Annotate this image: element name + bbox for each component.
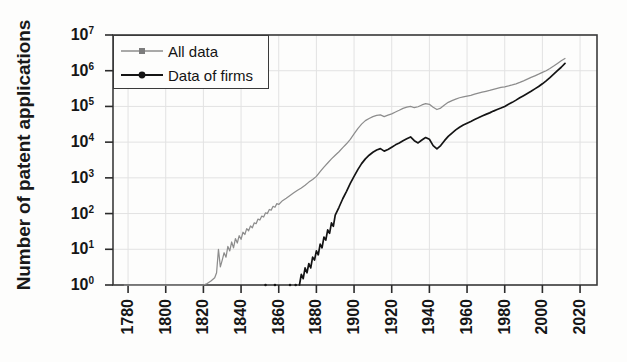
figure-container: Number of patent applications 1001011021… xyxy=(0,0,627,362)
legend-label-data-of-firms: Data of firms xyxy=(168,67,253,84)
legend-key-all-data xyxy=(120,41,164,61)
series-line-all-data xyxy=(124,58,565,285)
legend-key-data-of-firms xyxy=(120,65,164,85)
series-line-data-of-firms xyxy=(264,63,565,286)
legend-item-data-of-firms: Data of firms xyxy=(114,63,268,87)
plot-area xyxy=(0,0,627,362)
legend-label-all-data: All data xyxy=(168,43,218,60)
legend-item-all-data: All data xyxy=(114,39,268,63)
legend-box: All data Data of firms xyxy=(113,35,269,89)
